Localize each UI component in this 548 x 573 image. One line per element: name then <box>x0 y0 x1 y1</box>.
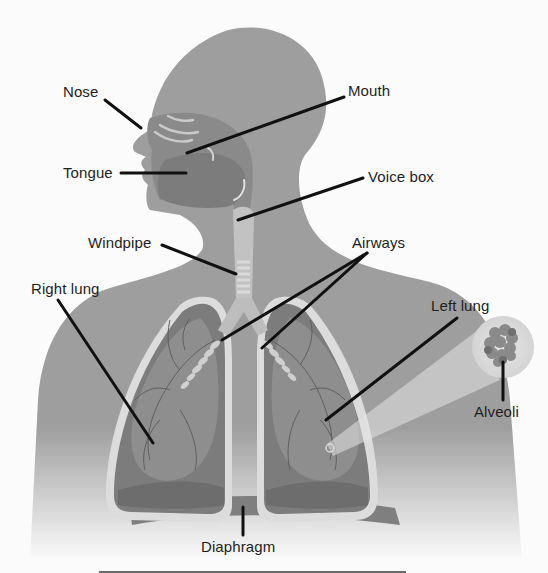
leader-line-nose <box>105 100 141 128</box>
label-mouth: Mouth <box>348 82 390 100</box>
label-alveoli: Alveoli <box>474 403 519 421</box>
label-windpipe: Windpipe <box>88 234 151 252</box>
label-airways: Airways <box>352 234 405 252</box>
label-voice-box: Voice box <box>368 168 434 186</box>
label-diaphragm: Diaphragm <box>201 538 275 556</box>
label-left-lung: Left lung <box>431 297 489 315</box>
label-nose: Nose <box>63 83 98 101</box>
label-tongue: Tongue <box>63 164 113 182</box>
respiratory-diagram: Nose Mouth Tongue Voice box Windpipe Air… <box>0 0 548 573</box>
label-right-lung: Right lung <box>31 280 100 298</box>
windpipe-shape <box>233 207 254 300</box>
